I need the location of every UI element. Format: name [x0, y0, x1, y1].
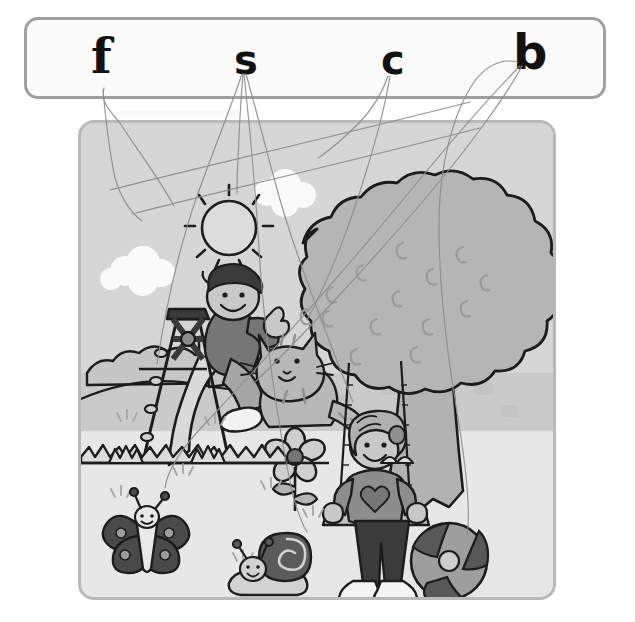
girl-hand-right: [407, 503, 427, 523]
snail: [229, 533, 311, 595]
letter-option-c[interactable]: c: [381, 40, 405, 80]
ladder-frame: [167, 309, 209, 319]
worksheet-sheet: f s c b: [0, 0, 635, 622]
boy-head: [203, 264, 263, 320]
letter-option-b[interactable]: b: [513, 28, 547, 76]
playground-picture: [78, 120, 556, 600]
letter-option-s[interactable]: s: [234, 40, 258, 80]
letter-option-f[interactable]: f: [91, 32, 112, 80]
snail-head: [240, 557, 266, 581]
playground-scene: [81, 123, 553, 597]
girl-hand-left: [323, 503, 343, 523]
letter-bank: f s c b: [24, 17, 606, 99]
ball: [411, 523, 488, 597]
